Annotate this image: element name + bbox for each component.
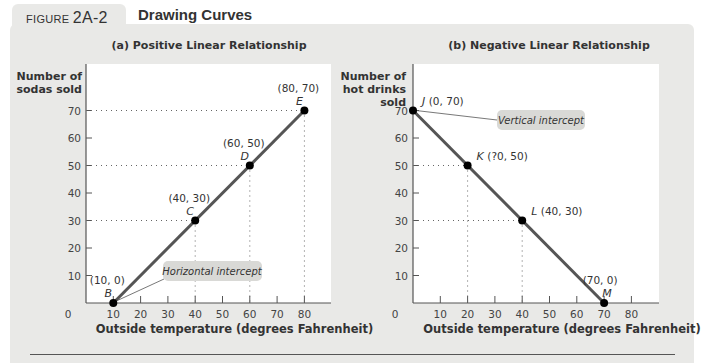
point-coords-m: (70, 0) [583, 274, 618, 286]
y-axis-label-b: Number of [341, 70, 407, 83]
chart-title-b: (b) Negative Linear Relationship [448, 39, 650, 52]
data-point-l [518, 217, 526, 225]
y-tick-label-a: 40 [68, 187, 81, 199]
x-tick-label-a: 80 [298, 308, 311, 320]
x-axis-label-b: Outside temperature (degrees Fahrenheit) [423, 322, 700, 336]
chart-title-a: (a) Positive Linear Relationship [111, 39, 306, 52]
point-name-m: M [602, 287, 612, 300]
y-tick-label-b: 50 [395, 160, 408, 172]
y-tick-label-a: 70 [68, 105, 81, 117]
data-point-m [600, 299, 608, 307]
y-tick-label-a: 60 [68, 132, 81, 144]
y-tick-label-a: 30 [68, 215, 81, 227]
x-tick-label-b: 70 [597, 308, 610, 320]
data-point-k [464, 162, 472, 170]
data-point-j [409, 107, 417, 115]
x-tick-label-b: 50 [543, 308, 556, 320]
y-tick-label-b: 70 [395, 105, 408, 117]
point-name-b: B [105, 287, 113, 300]
y-tick-label-b: 40 [395, 187, 408, 199]
point-name-e: E [296, 95, 303, 108]
y-tick-label-b: 30 [395, 215, 408, 227]
point-label-l: L (40, 30) [531, 205, 582, 218]
x-tick-label-b: 40 [516, 308, 529, 320]
x-tick-label-b: 60 [570, 308, 583, 320]
x-tick-label-a: 40 [189, 308, 202, 320]
x-tick-label-a: 30 [161, 308, 174, 320]
point-name-c: C [186, 205, 194, 218]
point-label-k: K (?0, 50) [477, 150, 528, 163]
x-tick-label-b: 20 [461, 308, 474, 320]
y-tick-label-a: 50 [68, 160, 81, 172]
y-axis-label-b: hot drinks [343, 83, 407, 96]
x-tick-label-b: 10 [434, 308, 447, 320]
charts-canvas: (a) Positive Linear RelationshipNumber o… [0, 0, 709, 363]
point-coords-b: (10, 0) [90, 274, 125, 286]
x-tick-label-a: 50 [216, 308, 229, 320]
y-tick-label-a: 10 [68, 270, 81, 282]
data-point-b [109, 299, 117, 307]
y-tick-label-b: 60 [395, 132, 408, 144]
y-tick-label-b: 20 [395, 242, 408, 254]
point-coords-c: (40, 30) [168, 192, 210, 204]
y-tick-label-a: 20 [68, 242, 81, 254]
data-point-e [300, 107, 308, 115]
y-axis-label-a: Number of [17, 70, 83, 83]
callout-text-b: Vertical intercept [498, 115, 585, 126]
x-tick-label-b: 80 [625, 308, 638, 320]
x-tick-label-a: 20 [134, 308, 147, 320]
x-tick-label-a: 0 [65, 308, 72, 320]
y-axis-label-a: sodas sold [16, 83, 82, 96]
x-tick-label-a: 60 [243, 308, 256, 320]
x-tick-label-a: 10 [107, 308, 120, 320]
point-name-d: D [241, 150, 249, 163]
data-point-d [246, 162, 254, 170]
x-tick-label-a: 70 [270, 308, 283, 320]
point-coords-d: (60, 50) [223, 137, 265, 149]
point-label-j: J (0, 70) [420, 95, 464, 108]
callout-text-a: Horizontal intercept [162, 266, 263, 277]
x-tick-label-b: 0 [392, 308, 399, 320]
x-tick-label-b: 30 [488, 308, 501, 320]
x-axis-label-a: Outside temperature (degrees Fahrenheit) [96, 322, 373, 336]
point-coords-e: (80, 70) [278, 82, 320, 94]
y-tick-label-b: 10 [395, 270, 408, 282]
data-point-c [191, 217, 199, 225]
